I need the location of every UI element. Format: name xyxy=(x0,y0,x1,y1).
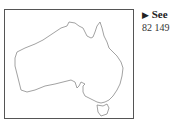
australia-outline xyxy=(5,10,133,118)
see-label: See xyxy=(152,8,168,20)
reference-code: 82 149 xyxy=(142,22,170,33)
map-frame[interactable] xyxy=(4,9,134,119)
play-arrow-icon: ▶ xyxy=(142,10,149,20)
see-reference-link[interactable]: ▶ See xyxy=(142,8,168,20)
